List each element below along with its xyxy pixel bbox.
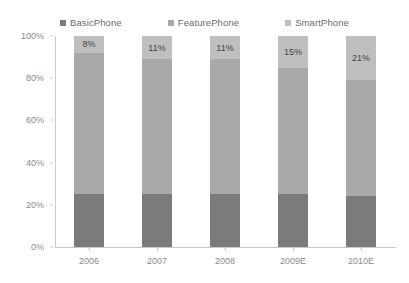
y-axis-tick-mark [50,120,53,121]
bar-segment-basicphone[interactable] [278,194,308,247]
bar-value-label: 21% [346,53,376,63]
legend-swatch-icon [168,20,174,26]
x-axis-tick-label: 2007 [123,256,191,266]
x-axis-tick-mark [293,248,294,251]
bar-segment-smartphone[interactable]: 11% [142,36,172,59]
bar-group: 11% [123,36,191,247]
bar-group: 15% [259,36,327,247]
y-axis-tick-label: 0% [31,242,44,252]
y-axis-tick-mark [50,204,53,205]
bar-segment-basicphone[interactable] [142,194,172,247]
legend-item-featurephone[interactable]: FeaturePhone [168,17,239,28]
y-axis-tick-mark [50,247,53,248]
bar-value-label: 15% [278,47,308,57]
bar-value-label: 11% [210,43,240,53]
bar-stack[interactable]: 11% [142,36,172,247]
legend-swatch-icon [285,20,291,26]
x-axis-tick-mark [89,248,90,251]
bar-segment-smartphone[interactable]: 21% [346,36,376,80]
x-axis-tick-group: 2008 [191,248,259,266]
x-axis-tick-group: 2010E [327,248,395,266]
bar-segment-featurephone[interactable] [74,53,104,194]
x-axis-tick-label: 2009E [259,256,327,266]
x-axis-tick-group: 2009E [259,248,327,266]
bar-segment-smartphone[interactable]: 11% [210,36,240,59]
bar-segment-basicphone[interactable] [210,194,240,247]
bar-segment-smartphone[interactable]: 8% [74,36,104,53]
y-axis-tick-label: 60% [26,115,44,125]
bar-group: 21% [327,36,395,247]
x-axis-tick-mark [225,248,226,251]
chart-legend: BasicPhoneFeaturePhoneSmartPhone [0,17,409,28]
bar-stack[interactable]: 21% [346,36,376,247]
legend-item-label: SmartPhone [295,17,349,28]
bar-segment-basicphone[interactable] [346,196,376,247]
bar-segment-featurephone[interactable] [278,68,308,195]
bar-series-container: 8%11%11%15%21% [55,36,395,247]
legend-item-basicphone[interactable]: BasicPhone [60,17,122,28]
y-axis-tick-mark [50,162,53,163]
y-axis-tick-mark [50,36,53,37]
legend-swatch-icon [60,20,66,26]
y-axis-tick-label: 20% [26,200,44,210]
y-axis-tick-label: 80% [26,73,44,83]
y-axis: 100%80%60%40%20%0% [0,36,50,247]
legend-item-label: BasicPhone [70,17,122,28]
x-axis-tick-label: 2010E [327,256,395,266]
x-axis-tick-group: 2007 [123,248,191,266]
bar-group: 8% [55,36,123,247]
y-axis-tick-label: 40% [26,158,44,168]
x-axis: 2006200720082009E2010E [55,248,395,272]
x-axis-tick-mark [157,248,158,251]
bar-group: 11% [191,36,259,247]
bar-segment-basicphone[interactable] [74,194,104,247]
bar-value-label: 8% [74,39,104,49]
x-axis-tick-label: 2008 [191,256,259,266]
x-axis-tick-mark [361,248,362,251]
bar-segment-smartphone[interactable]: 15% [278,36,308,68]
legend-item-smartphone[interactable]: SmartPhone [285,17,349,28]
stacked-bar-chart: BasicPhoneFeaturePhoneSmartPhone 100%80%… [0,0,409,283]
bar-value-label: 11% [142,43,172,53]
x-axis-tick-group: 2006 [55,248,123,266]
x-axis-tick-label: 2006 [55,256,123,266]
bar-segment-featurephone[interactable] [346,80,376,196]
y-axis-tick-mark [50,78,53,79]
bar-stack[interactable]: 11% [210,36,240,247]
legend-item-label: FeaturePhone [178,17,239,28]
bar-segment-featurephone[interactable] [142,59,172,194]
y-axis-tick-label: 100% [21,31,44,41]
bar-stack[interactable]: 8% [74,36,104,247]
bar-segment-featurephone[interactable] [210,59,240,194]
bar-stack[interactable]: 15% [278,36,308,247]
